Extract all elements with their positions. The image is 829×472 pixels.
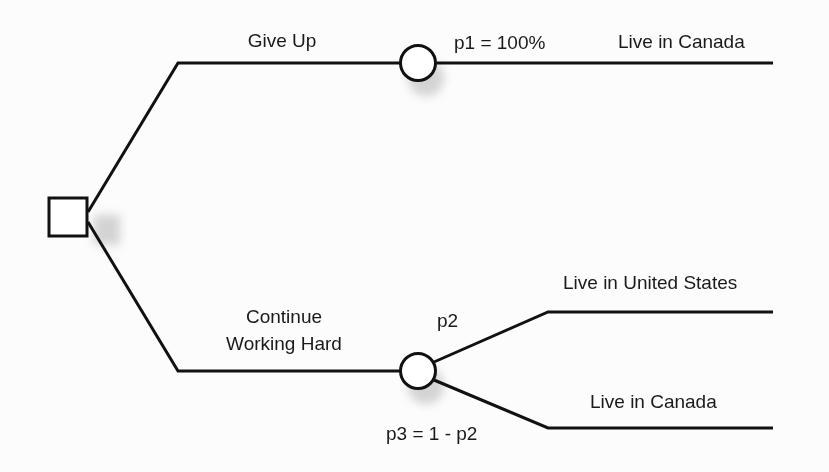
branch-label-give-up: Give Up bbox=[248, 30, 317, 51]
outcome-label-top-canada: Live in Canada bbox=[618, 31, 745, 52]
probability-label-p1: p1 = 100% bbox=[454, 32, 545, 53]
chance-node-top-circle-icon bbox=[401, 46, 436, 81]
diagram-svg: Give Up p1 = 100% Live in Canada Continu… bbox=[0, 0, 829, 472]
branch-label-continue-line2: Working Hard bbox=[226, 333, 342, 354]
chance-node-bottom-circle-icon bbox=[401, 354, 436, 389]
decision-node-square-icon bbox=[49, 198, 87, 236]
edge-give-up bbox=[88, 63, 400, 212]
outcome-label-bottom-canada: Live in Canada bbox=[590, 391, 717, 412]
branch-label-continue-line1: Continue bbox=[246, 306, 322, 327]
decision-tree-diagram: Give Up p1 = 100% Live in Canada Continu… bbox=[0, 0, 829, 472]
probability-label-p3: p3 = 1 - p2 bbox=[386, 423, 477, 444]
probability-label-p2: p2 bbox=[437, 310, 458, 331]
outcome-label-united-states: Live in United States bbox=[563, 272, 737, 293]
